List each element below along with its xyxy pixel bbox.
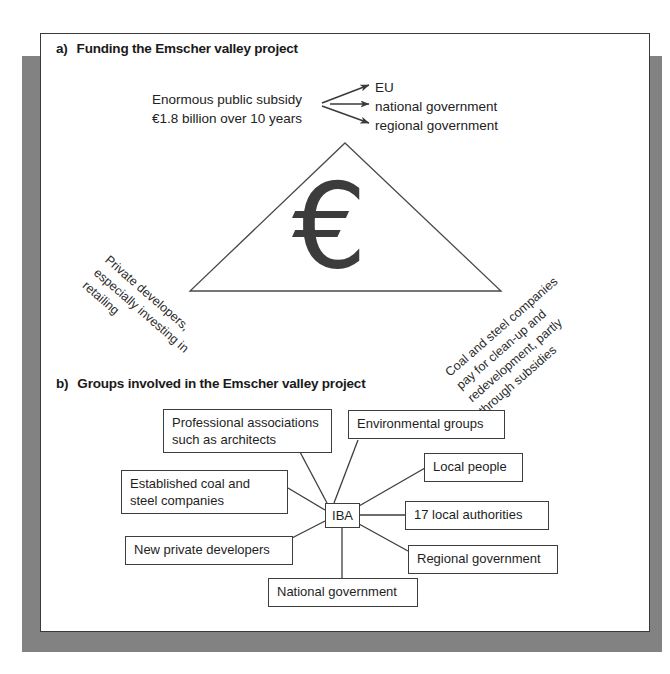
- section-b-title: Groups involved in the Emscher valley pr…: [77, 376, 365, 391]
- node-professional-associations[interactable]: Professional associations such as archit…: [163, 409, 332, 453]
- subsidy-line-1: Enormous public subsidy: [152, 90, 302, 109]
- node-local-authorities-label: 17 local authorities: [414, 506, 541, 523]
- node-national-government-label: National government: [277, 583, 410, 600]
- node-established-coal-steel-line-1: Established coal and: [130, 475, 280, 492]
- node-iba-label: IBA: [332, 507, 353, 524]
- node-new-private-developers-label: New private developers: [134, 541, 285, 558]
- node-local-authorities[interactable]: 17 local authorities: [405, 501, 549, 530]
- section-b-marker: b): [56, 376, 68, 391]
- node-local-people[interactable]: Local people: [424, 453, 523, 482]
- node-regional-government-label: Regional government: [417, 550, 550, 567]
- node-professional-associations-line-2: such as architects: [172, 431, 324, 448]
- recipient-national-government: national government: [375, 99, 497, 114]
- section-a-heading: a)Funding the Emscher valley project: [56, 41, 298, 56]
- frame-shadow-bottom: [22, 632, 662, 652]
- node-established-coal-steel-line-2: steel companies: [130, 492, 280, 509]
- node-regional-government[interactable]: Regional government: [408, 545, 558, 574]
- node-iba[interactable]: IBA: [325, 503, 360, 528]
- node-local-people-label: Local people: [433, 458, 515, 475]
- subsidy-line-2: €1.8 billion over 10 years: [152, 109, 302, 128]
- node-new-private-developers[interactable]: New private developers: [125, 536, 293, 565]
- figure-root: a)Funding the Emscher valley project Eno…: [0, 0, 670, 674]
- node-environmental-groups-label: Environmental groups: [357, 415, 497, 432]
- node-established-coal-steel[interactable]: Established coal and steel companies: [121, 470, 288, 514]
- frame-shadow-left: [22, 56, 42, 652]
- recipient-regional-government: regional government: [375, 118, 498, 133]
- section-a-marker: a): [56, 41, 68, 56]
- section-a-title: Funding the Emscher valley project: [77, 41, 298, 56]
- subsidy-source-text: Enormous public subsidy €1.8 billion ove…: [152, 90, 302, 128]
- node-national-government[interactable]: National government: [268, 578, 418, 607]
- recipient-eu: EU: [375, 80, 394, 95]
- node-environmental-groups[interactable]: Environmental groups: [348, 410, 505, 439]
- euro-symbol: €: [292, 167, 367, 285]
- section-b-heading: b)Groups involved in the Emscher valley …: [56, 376, 365, 391]
- node-professional-associations-line-1: Professional associations: [172, 414, 324, 431]
